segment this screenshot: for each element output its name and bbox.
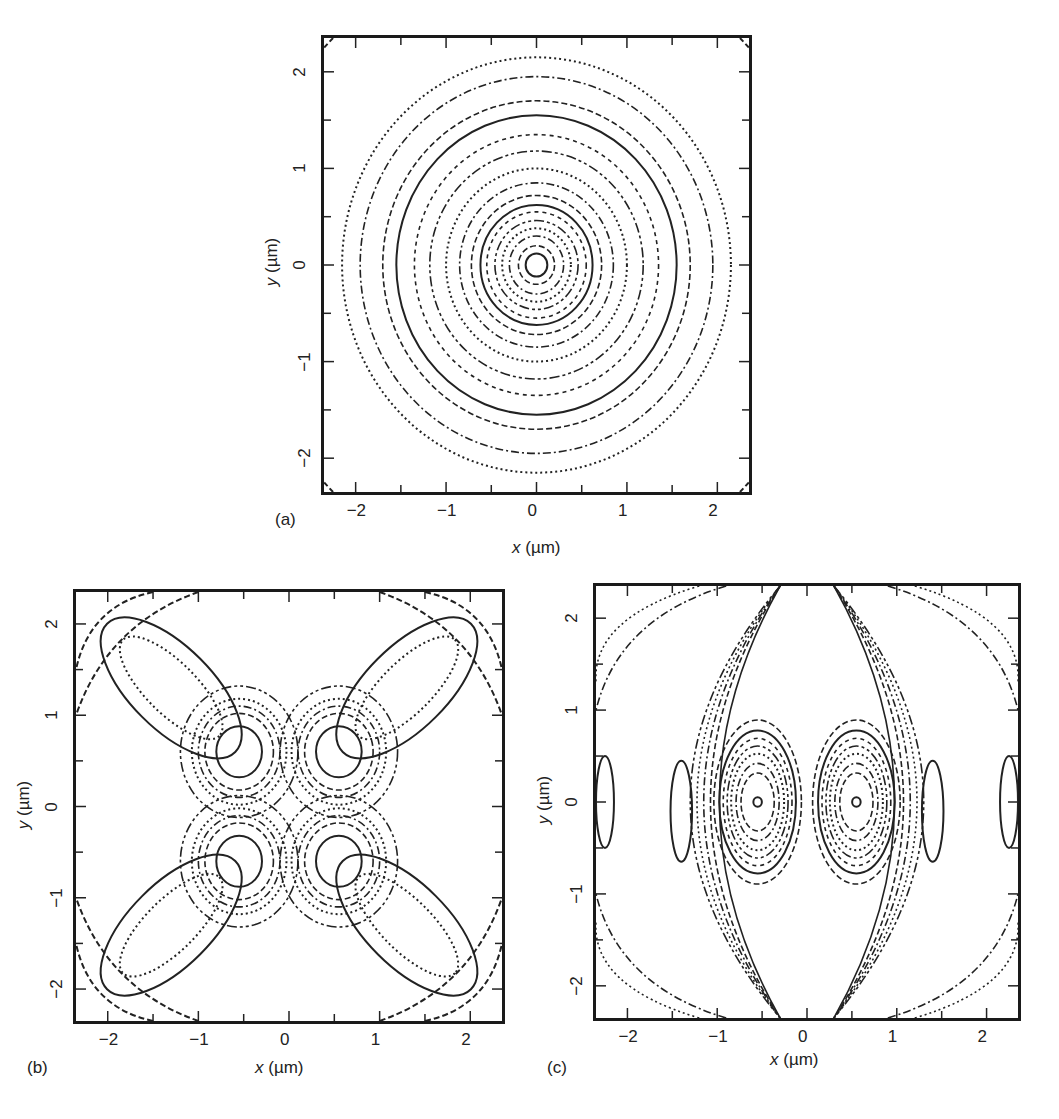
y-axis-var: y: [262, 278, 281, 287]
x-tick-label: −2: [99, 1030, 118, 1050]
y-tick-label: 1: [290, 164, 310, 173]
x-tick-label: 1: [618, 501, 627, 521]
y-tick-label: 2: [562, 613, 582, 622]
y-tick-label: −1: [295, 352, 315, 371]
y-tick-label: 1: [562, 705, 582, 714]
y-tick-label: 1: [42, 710, 62, 719]
y-tick-label: 2: [290, 67, 310, 76]
y-tick-label: −2: [47, 979, 67, 998]
x-axis-label: x (µm): [770, 1050, 819, 1070]
x-tick-label: 2: [708, 501, 717, 521]
x-axis-var: x: [255, 1058, 264, 1077]
contour-plot-c: [596, 586, 1018, 1018]
x-tick-label: 2: [978, 1027, 987, 1047]
y-axis-unit: (µm): [534, 776, 553, 816]
y-tick-label: 0: [42, 802, 62, 811]
x-tick-label: −1: [189, 1030, 208, 1050]
x-tick-label: 1: [888, 1027, 897, 1047]
x-tick-label: 0: [798, 1027, 807, 1047]
x-axis-label: x (µm): [255, 1058, 304, 1078]
panel-tag: (a): [275, 510, 296, 530]
y-tick-label: −2: [295, 448, 315, 467]
y-tick-label: −1: [567, 884, 587, 903]
plot-area-a: [321, 35, 752, 495]
x-axis-unit: (µm): [521, 538, 561, 557]
y-axis-label: y (µm): [262, 238, 282, 287]
x-tick-label: 0: [280, 1030, 289, 1050]
y-axis-var: y: [14, 821, 33, 830]
x-tick-label: −1: [437, 501, 456, 521]
panel-tag: (b): [27, 1058, 48, 1078]
plot-area-c: [593, 583, 1021, 1021]
y-axis-label: y (µm): [14, 781, 34, 830]
x-tick-label: −2: [347, 501, 366, 521]
y-axis-unit: (µm): [14, 781, 33, 821]
x-axis-var: x: [512, 538, 521, 557]
x-axis-label: x (µm): [512, 538, 561, 558]
y-axis-var: y: [534, 816, 553, 825]
y-tick-label: 2: [42, 619, 62, 628]
contour-plot-a: [324, 38, 749, 492]
panel-tag: (c): [547, 1058, 567, 1078]
x-tick-label: −1: [708, 1027, 727, 1047]
y-tick-label: 0: [562, 797, 582, 806]
x-axis-unit: (µm): [264, 1058, 304, 1077]
x-tick-label: 2: [461, 1030, 470, 1050]
y-tick-label: 0: [290, 260, 310, 269]
x-tick-label: 0: [528, 501, 537, 521]
x-tick-label: −2: [618, 1027, 637, 1047]
contour-plot-b: [76, 592, 502, 1021]
y-axis-label: y (µm): [534, 776, 554, 825]
x-axis-var: x: [770, 1050, 779, 1069]
plot-area-b: [73, 589, 505, 1024]
y-axis-unit: (µm): [262, 238, 281, 278]
y-tick-label: −2: [567, 976, 587, 995]
y-tick-label: −1: [47, 888, 67, 907]
x-axis-unit: (µm): [779, 1050, 819, 1069]
x-tick-label: 1: [371, 1030, 380, 1050]
